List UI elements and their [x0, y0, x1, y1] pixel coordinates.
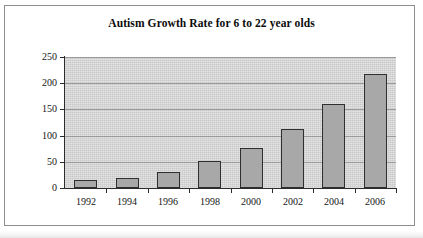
bar — [198, 161, 221, 188]
y-tick-label: 200 — [27, 77, 57, 88]
gridline — [65, 83, 396, 84]
x-tick-mark — [313, 189, 314, 193]
y-tick-mark — [60, 83, 65, 84]
x-tick-label: 1992 — [63, 196, 109, 207]
y-tick-label: 100 — [27, 130, 57, 141]
gridline — [65, 57, 396, 58]
x-tick-mark — [106, 189, 107, 193]
y-tick-mark — [60, 188, 65, 189]
x-tick-mark — [231, 189, 232, 193]
y-tick-label: 150 — [27, 103, 57, 114]
gridline — [65, 136, 396, 137]
x-tick-label: 1994 — [104, 196, 150, 207]
y-tick-mark — [60, 109, 65, 110]
bar — [74, 180, 97, 188]
x-tick-mark — [355, 189, 356, 193]
scan-shadow — [0, 231, 423, 238]
x-tick-label: 1998 — [187, 196, 233, 207]
gridline — [65, 162, 396, 163]
x-tick-label: 2002 — [270, 196, 316, 207]
x-tick-mark — [272, 189, 273, 193]
x-tick-mark — [189, 189, 190, 193]
gridline — [65, 109, 396, 110]
x-tick-label: 2006 — [352, 196, 398, 207]
scanned-page: Autism Growth Rate for 6 to 22 year olds… — [0, 0, 423, 238]
y-tick-label: 0 — [27, 182, 57, 193]
plot-area — [65, 57, 396, 188]
x-tick-label: 1996 — [145, 196, 191, 207]
y-tick-mark — [60, 162, 65, 163]
y-axis-line — [64, 56, 65, 189]
chart-title: Autism Growth Rate for 6 to 22 year olds — [0, 17, 423, 29]
bar — [281, 129, 304, 188]
x-tick-label: 2000 — [228, 196, 274, 207]
x-tick-mark — [148, 189, 149, 193]
bar — [157, 172, 180, 188]
bar — [116, 178, 139, 188]
x-tick-mark — [396, 189, 397, 193]
plot-texture — [65, 57, 396, 188]
bar — [322, 104, 345, 188]
y-tick-mark — [60, 57, 65, 58]
y-tick-label: 50 — [27, 156, 57, 167]
bar — [364, 74, 387, 188]
bar — [240, 148, 263, 188]
y-tick-label: 250 — [27, 51, 57, 62]
x-tick-label: 2004 — [311, 196, 357, 207]
y-tick-mark — [60, 136, 65, 137]
